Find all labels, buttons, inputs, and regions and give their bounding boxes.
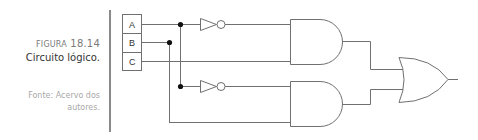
not-bubble-1	[217, 21, 225, 29]
logic-circuit-diagram: A B C	[0, 0, 478, 140]
junction-a-top	[178, 22, 183, 27]
and-gate-2	[291, 82, 343, 127]
not-gate-1	[201, 19, 217, 31]
and-gate-1	[291, 20, 343, 65]
or-gate	[399, 58, 448, 103]
not-bubble-2	[217, 83, 225, 91]
input-label-b: B	[129, 38, 135, 48]
input-label-a: A	[129, 20, 135, 30]
junction-b	[167, 40, 172, 45]
not-gate-2	[201, 81, 217, 93]
junction-a-bottom	[178, 84, 183, 89]
input-label-c: C	[129, 57, 136, 67]
